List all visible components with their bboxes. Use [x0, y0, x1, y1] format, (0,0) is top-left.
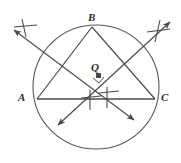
center-label-q: Q [91, 62, 99, 73]
arc-mark-upper-left [14, 19, 37, 37]
perpendicular-bisector-ray-2 [58, 22, 170, 125]
vertex-label-b: B [88, 12, 95, 23]
arc-mark-upper-right [147, 20, 170, 42]
vertex-label-a: A [18, 92, 25, 103]
triangle-side-bc [92, 27, 155, 99]
perpendicular-bisector-ray-1 [14, 30, 134, 120]
point-q-marker [96, 73, 101, 78]
vertex-label-c: C [161, 92, 168, 103]
circumscribed-circle [33, 25, 159, 149]
arc-mark-lower-right [99, 87, 119, 108]
geometry-canvas [0, 0, 181, 163]
geometry-figure: A B C Q [0, 0, 181, 163]
triangle-side-ab [37, 27, 92, 99]
